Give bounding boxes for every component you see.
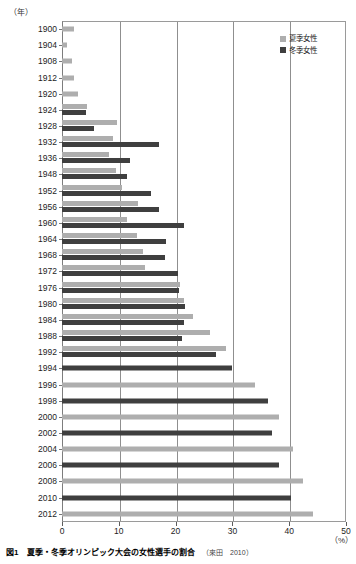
bar-winter: [62, 430, 272, 435]
y-axis-tick-label: 2000: [38, 413, 57, 422]
x-axis-tick-label: 20: [171, 526, 180, 536]
chart-row: 1992: [62, 344, 346, 360]
bar-winter: [62, 336, 182, 341]
bar-summer: [62, 447, 293, 452]
y-axis-tick-label: 1968: [38, 251, 57, 260]
bar-summer: [62, 152, 109, 157]
y-axis-tick-label: 1932: [38, 138, 57, 147]
bar-summer: [62, 217, 127, 222]
chart-row: 2002: [62, 425, 346, 441]
chart-row: 1964: [62, 231, 346, 247]
figure-container: （年） 190019041908191219201924192819321936…: [0, 0, 356, 564]
bar-winter: [62, 126, 94, 131]
legend-item-summer: 夏季女性: [280, 33, 346, 45]
bar-summer: [62, 314, 193, 319]
bar-summer: [62, 282, 180, 287]
bar-summer: [62, 104, 87, 109]
y-axis-tick-label: 1994: [38, 364, 57, 373]
legend-item-winter: 冬季女性: [280, 45, 346, 57]
y-axis-tick-label: 1948: [38, 170, 57, 179]
bar-winter: [62, 223, 184, 228]
x-axis-tick-label: 10: [114, 526, 123, 536]
bar-summer: [62, 479, 303, 484]
chart-row: 1948: [62, 166, 346, 182]
chart-row: 1932: [62, 134, 346, 150]
y-axis-tick-label: 1988: [38, 332, 57, 341]
bar-winter: [62, 495, 291, 500]
x-axis-unit-label: （%）: [330, 534, 353, 545]
bar-summer: [62, 382, 255, 387]
x-axis-tick-label: 40: [284, 526, 293, 536]
chart-row: 1988: [62, 328, 346, 344]
bar-summer: [62, 414, 279, 419]
chart-row: 1928: [62, 118, 346, 134]
y-axis-tick-label: 2004: [38, 445, 57, 454]
y-axis-tick-label: 1976: [38, 283, 57, 292]
y-axis-tick-label: 1992: [38, 348, 57, 357]
bar-summer: [62, 59, 72, 64]
caption-title: 夏季・冬季オリンピック大会の女性選手の割合: [27, 548, 195, 557]
caption-number: 図1: [6, 548, 18, 557]
figure-caption: 図1 夏季・冬季オリンピック大会の女性選手の割合 （來田 2010）: [6, 546, 350, 557]
bar-summer: [62, 168, 116, 173]
y-axis-tick-label: 1998: [38, 396, 57, 405]
bar-winter: [62, 142, 159, 147]
chart-row: 2000: [62, 409, 346, 425]
y-axis-tick-label: 1912: [38, 73, 57, 82]
bar-winter: [62, 352, 216, 357]
bar-summer: [62, 346, 226, 351]
bar-winter: [62, 366, 232, 371]
bar-winter: [62, 320, 184, 325]
y-axis-tick-label: 1956: [38, 203, 57, 212]
y-axis-tick-label: 2012: [38, 510, 57, 519]
legend: 夏季女性冬季女性: [272, 21, 346, 64]
bar-summer: [62, 330, 210, 335]
chart-row: 2006: [62, 457, 346, 473]
y-axis-tick-label: 1960: [38, 219, 57, 228]
chart-row: 1994: [62, 360, 346, 376]
chart-row: 1998: [62, 393, 346, 409]
bar-winter: [62, 110, 86, 115]
y-axis-tick-label: 1908: [38, 57, 57, 66]
bar-winter: [62, 398, 268, 403]
chart-row: 1956: [62, 199, 346, 215]
y-axis-tick-label: 2002: [38, 429, 57, 438]
chart-row: 1984: [62, 312, 346, 328]
chart-row: 1980: [62, 296, 346, 312]
chart-row: 1952: [62, 183, 346, 199]
caption-source: （來田 2010）: [202, 549, 253, 556]
bar-summer: [62, 233, 137, 238]
bar-summer: [62, 298, 184, 303]
bar-winter: [62, 207, 159, 212]
y-axis-tick-label: 1996: [38, 380, 57, 389]
legend-label: 夏季女性: [289, 33, 317, 45]
legend-swatch-winter: [280, 47, 286, 53]
bar-winter: [62, 158, 130, 163]
bar-summer: [62, 120, 117, 125]
y-axis-tick-label: 2008: [38, 477, 57, 486]
bar-summer: [62, 511, 313, 516]
x-axis-tick-label: 30: [228, 526, 237, 536]
bar-winter: [62, 463, 279, 468]
chart-row: 2010: [62, 490, 346, 506]
bar-winter: [62, 255, 165, 260]
y-axis-tick-label: 2006: [38, 461, 57, 470]
bar-summer: [62, 27, 74, 32]
chart-row: 1976: [62, 280, 346, 296]
bar-summer: [62, 265, 145, 270]
chart-row: 1972: [62, 263, 346, 279]
bars-layer: 1900190419081912192019241928193219361948…: [62, 21, 346, 522]
legend-label: 冬季女性: [289, 45, 317, 57]
chart-row: 1936: [62, 150, 346, 166]
bar-summer: [62, 201, 138, 206]
y-axis-tick-label: 1900: [38, 25, 57, 34]
bar-summer: [62, 43, 67, 48]
y-axis-tick-label: 1964: [38, 235, 57, 244]
y-axis-tick-label: 1928: [38, 122, 57, 131]
bar-summer: [62, 249, 143, 254]
chart-row: 1912: [62, 69, 346, 85]
chart-row: 2004: [62, 441, 346, 457]
y-axis-tick-label: 1972: [38, 267, 57, 276]
chart-row: 1960: [62, 215, 346, 231]
y-axis-unit-label: （年）: [9, 6, 33, 17]
